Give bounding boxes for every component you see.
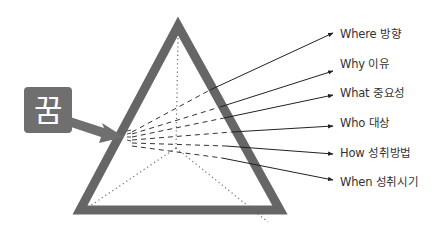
label-how: How 성취방법 [340, 144, 411, 160]
inner-dotted-lines [90, 38, 268, 222]
prism-triangle [80, 26, 280, 210]
label-why: Why 이유 [340, 55, 390, 71]
label-where: Where 방향 [340, 25, 401, 41]
dream-concept-box: 꿈 [24, 87, 72, 133]
label-what: What 중요성 [340, 84, 405, 100]
label-who: Who 대상 [340, 114, 390, 130]
prism-diagram: 꿈 Where 방향 Why 이유 What 중요성 Who 대상 How 성취… [0, 0, 436, 231]
entry-point-marks [127, 130, 131, 141]
label-when: When 성취시기 [340, 173, 419, 189]
dream-label: 꿈 [34, 95, 63, 126]
output-arrows [210, 33, 333, 180]
